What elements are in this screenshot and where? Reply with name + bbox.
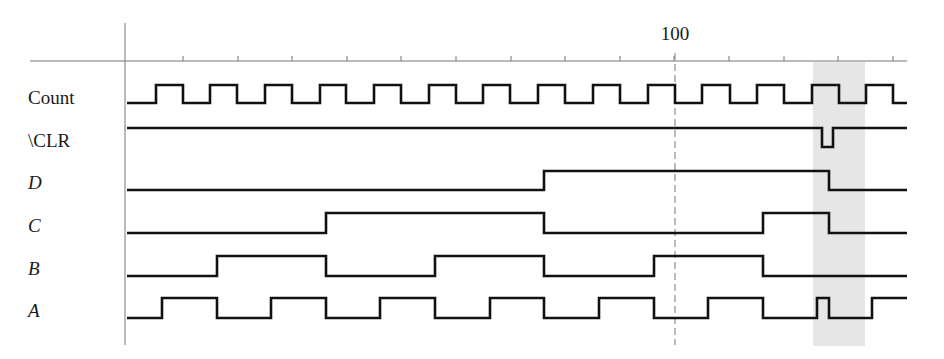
signal-label-b: B (28, 259, 40, 279)
signal-label-clr: \CLR (28, 131, 70, 151)
waveform-b (127, 256, 907, 276)
signal-label-c: C (28, 216, 41, 236)
time-axis-ticks (183, 56, 893, 61)
signal-label-d: D (28, 173, 42, 193)
signal-label-a: A (28, 301, 40, 321)
timing-diagram: 100 Count \CLR D C B A (0, 0, 944, 359)
waveform-clr (127, 128, 907, 147)
waveform-count (127, 85, 907, 103)
waveform-c (127, 213, 907, 233)
time-marker-label: 100 (661, 23, 690, 45)
signal-waveforms (127, 85, 907, 318)
waveform-a (127, 298, 907, 318)
reset-highlight-region (813, 62, 865, 346)
signal-label-count: Count (28, 88, 74, 108)
timing-diagram-canvas (0, 0, 944, 359)
waveform-d (127, 171, 907, 190)
